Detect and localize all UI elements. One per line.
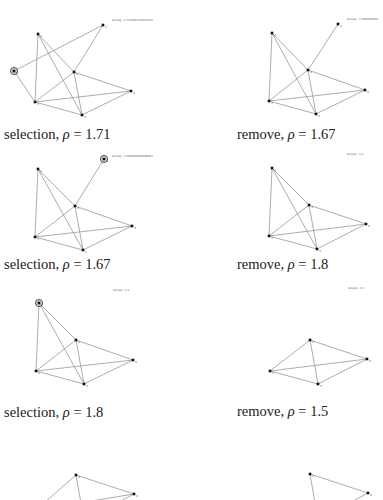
node-label: 6 — [134, 227, 136, 230]
graph-edge — [308, 24, 338, 70]
graph-edge — [14, 71, 35, 102]
graph-node — [37, 33, 40, 36]
graph-edge — [76, 475, 84, 500]
graph-node — [309, 473, 312, 476]
graph-node — [75, 474, 78, 477]
graph-edge — [14, 25, 103, 71]
node-label: 5 — [84, 116, 86, 119]
graph-edge — [269, 224, 366, 236]
graph-edge — [272, 168, 309, 205]
graph-edge — [310, 474, 368, 493]
node-label: 6 — [136, 495, 138, 498]
graph-edge — [317, 224, 366, 249]
graph-panel-1: 0123456 — [0, 0, 192, 125]
graph-edge — [272, 33, 308, 70]
graph-node — [103, 158, 106, 161]
graph-network-8: 456 — [192, 370, 383, 500]
graph-edge — [35, 34, 38, 102]
graph-node — [73, 71, 76, 74]
graph-network-5: 12456 — [0, 250, 192, 380]
graph-node — [81, 114, 84, 117]
node-label: 6 — [367, 91, 369, 94]
density-label-1: density : 1.7142857142857142 — [112, 19, 153, 22]
graph-edge — [318, 493, 368, 500]
graph-node — [271, 167, 274, 170]
graph-node — [102, 24, 105, 27]
node-label: 5 — [318, 115, 320, 118]
node-label: 4 — [78, 341, 80, 344]
graph-edge — [35, 91, 131, 102]
graph-node — [38, 302, 41, 305]
graph-node — [34, 236, 37, 239]
node-label: 1 — [41, 304, 43, 307]
graph-network-7: 2456 — [0, 370, 192, 500]
graph-network-3: 123456 — [0, 120, 192, 250]
graph-panel-4: 12456 — [192, 120, 383, 250]
graph-panel-8: 456 — [192, 370, 383, 500]
graph-edge — [75, 206, 132, 226]
graph-edge — [316, 90, 365, 114]
graph-node — [309, 339, 312, 342]
graph-node — [37, 168, 40, 171]
graph-node — [130, 90, 133, 93]
node-label: 1 — [40, 170, 42, 173]
graph-edge — [310, 340, 367, 359]
density-label-4: density : 1.8 — [347, 153, 363, 156]
graph-node — [337, 23, 340, 26]
graph-edge — [74, 72, 131, 91]
graph-node — [133, 493, 136, 496]
graph-edge — [35, 169, 38, 237]
graph-edge — [310, 474, 318, 500]
graph-network-4: 12456 — [192, 120, 383, 250]
node-label: 1 — [40, 35, 42, 38]
graph-edge — [269, 70, 308, 101]
graph-edge — [269, 236, 317, 249]
graph-edge — [82, 91, 131, 115]
graph-edge — [35, 237, 83, 250]
node-label: 6 — [370, 494, 372, 497]
node-label: 4 — [310, 71, 312, 74]
graph-node — [365, 223, 368, 226]
node-label: 6 — [368, 225, 370, 228]
graph-node — [307, 69, 310, 72]
node-label: 3 — [106, 160, 108, 163]
graph-edge — [309, 205, 366, 224]
graph-node — [34, 101, 37, 104]
graph-edge — [308, 70, 365, 90]
graph-edge — [35, 72, 74, 102]
graph-node — [13, 70, 16, 73]
graph-edge — [36, 303, 39, 371]
graph-node — [366, 358, 369, 361]
graph-node — [74, 205, 77, 208]
node-label: 1 — [274, 34, 276, 37]
graph-edge — [38, 34, 74, 72]
graph-edge — [76, 340, 133, 360]
graph-node — [315, 113, 318, 116]
graph-edge — [35, 206, 75, 237]
node-label: 4 — [77, 207, 79, 210]
graph-node — [271, 32, 274, 35]
graph-edge — [269, 33, 272, 101]
graph-edge — [76, 475, 134, 494]
graph-edge — [83, 226, 132, 250]
graph-panel-3: 123456 — [0, 120, 192, 250]
graph-network-1: 0123456 — [0, 0, 192, 125]
graph-network-6: 2456 — [192, 250, 383, 380]
graph-node — [75, 339, 78, 342]
graph-edge — [36, 340, 76, 371]
density-label-6: density : 1.5 — [348, 287, 364, 290]
graph-edge — [74, 25, 103, 72]
density-label-5: density : 1.8 — [113, 289, 129, 292]
graph-edge — [270, 340, 310, 371]
graph-edge — [74, 72, 82, 115]
graph-edge — [75, 159, 104, 206]
graph-edge — [35, 226, 132, 237]
graph-edge — [36, 475, 76, 500]
graph-edge — [272, 168, 317, 249]
graph-node — [132, 359, 135, 362]
graph-edge — [38, 169, 75, 206]
graph-node — [131, 225, 134, 228]
graph-panel-6: 2456 — [192, 250, 383, 380]
node-label: 6 — [133, 92, 135, 95]
graph-node — [308, 204, 311, 207]
